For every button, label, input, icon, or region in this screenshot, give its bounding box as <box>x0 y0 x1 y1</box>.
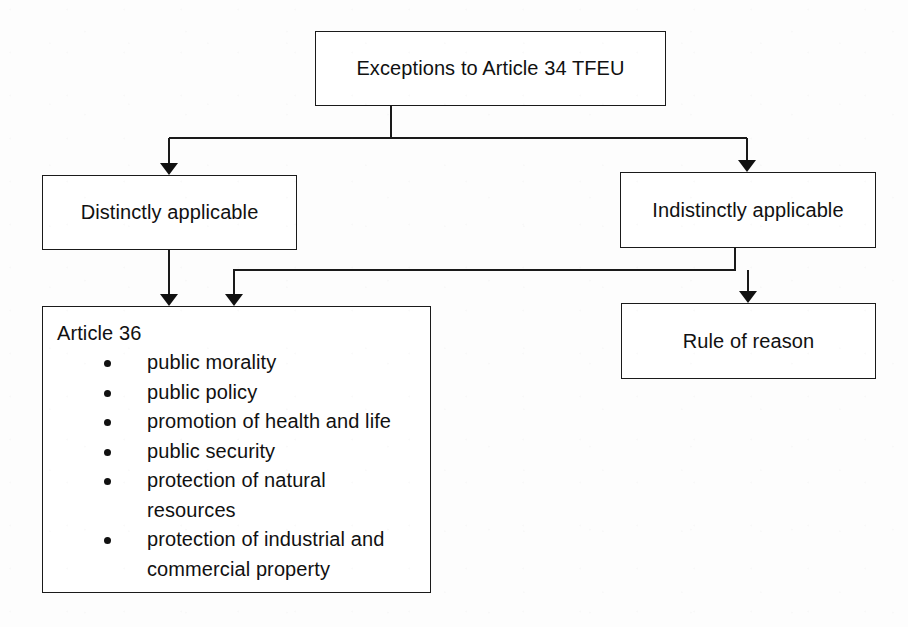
node-indistinctly-label: Indistinctly applicable <box>652 198 843 223</box>
node-rule-of-reason-label: Rule of reason <box>683 329 814 354</box>
bullet-dot-icon <box>104 537 111 544</box>
article-36-bullet-label: public morality <box>147 351 276 373</box>
article-36-bullet-label: protection of industrial and commercial … <box>147 528 384 580</box>
article-36-bullet-label: public policy <box>147 381 257 403</box>
arrowhead-indistinctly-to-article36 <box>225 294 243 306</box>
bullet-dot-icon <box>104 478 111 485</box>
arrowhead-indistinctly-to-rule <box>739 291 757 303</box>
arrowhead-distinctly-to-article36 <box>160 294 178 306</box>
bullet-dot-icon <box>104 419 111 426</box>
bullet-dot-icon <box>104 360 111 367</box>
node-indistinctly-applicable: Indistinctly applicable <box>620 172 876 248</box>
bullet-dot-icon <box>104 390 111 397</box>
node-distinctly-label: Distinctly applicable <box>81 200 259 225</box>
edge-indistinctly-to-article36 <box>234 248 735 297</box>
node-article-36: Article 36 public moralitypublic policyp… <box>42 306 431 593</box>
flowchart-diagram: Exceptions to Article 34 TFEU Distinctly… <box>0 0 908 627</box>
article-36-title: Article 36 <box>57 319 420 347</box>
node-root-label: Exceptions to Article 34 TFEU <box>356 56 624 81</box>
article-36-bullet-item: public policy <box>57 378 420 408</box>
arrowhead-to-distinctly <box>160 163 178 175</box>
bullet-dot-icon <box>104 449 111 456</box>
article-36-bullet-item: public security <box>57 437 420 467</box>
node-rule-of-reason: Rule of reason <box>621 303 876 379</box>
article-36-bullet-item: public morality <box>57 348 420 378</box>
node-distinctly-applicable: Distinctly applicable <box>42 175 297 250</box>
article-36-bullet-list: public moralitypublic policypromotion of… <box>57 348 420 584</box>
article-36-bullet-item: protection of natural resources <box>57 466 420 525</box>
article-36-bullet-label: promotion of health and life <box>147 410 391 432</box>
article-36-bullet-label: public security <box>147 440 275 462</box>
arrowhead-to-indistinctly <box>738 160 756 172</box>
node-exceptions-to-article-34-tfeu: Exceptions to Article 34 TFEU <box>315 31 666 106</box>
article-36-bullet-item: promotion of health and life <box>57 407 420 437</box>
article-36-bullet-item: protection of industrial and commercial … <box>57 525 420 584</box>
article-36-bullet-label: protection of natural resources <box>147 469 326 521</box>
